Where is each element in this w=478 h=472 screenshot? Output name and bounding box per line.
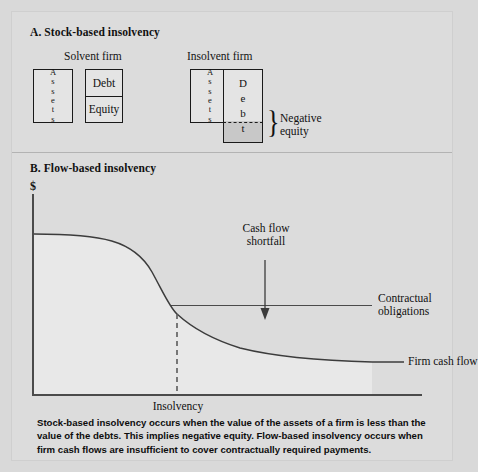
letter: e	[241, 91, 246, 106]
figure-caption: Stock-based insolvency occurs when the v…	[37, 416, 443, 456]
letter: t	[241, 121, 244, 136]
solvent-assets-label: A s s e t s	[34, 70, 72, 122]
negative-equity-brace: }	[267, 107, 279, 140]
letter: b	[240, 106, 246, 121]
letter: s	[208, 115, 211, 124]
negative-equity-label-line2: equity	[280, 125, 309, 138]
insolvent-debt-label: D e b t	[224, 70, 262, 148]
contractual-obligations-label-line2: obligations	[378, 305, 429, 319]
negative-equity-label-line1: Negative	[280, 112, 322, 125]
contractual-obligations-label-line1: Contractual	[378, 292, 432, 306]
solvent-equity-label: Equity	[86, 97, 122, 121]
panel-a-title: A. Stock-based insolvency	[30, 26, 160, 38]
cash-flow-shortfall-label-line1: Cash flow	[234, 222, 298, 236]
letter: D	[239, 76, 247, 91]
figure-panel: A. Stock-based insolvency Solvent firm I…	[12, 12, 452, 460]
letter: s	[51, 115, 54, 124]
solvent-assets-box: A s s e t s	[33, 69, 73, 123]
solvent-debt-label: Debt	[86, 70, 122, 96]
shortfall-arrow-head	[261, 308, 270, 320]
cash-flow-area-fill	[34, 234, 372, 394]
panel-divider	[12, 152, 452, 153]
insolvency-tick-label: Insolvency	[148, 400, 208, 414]
cash-flow-shortfall-label-line2: shortfall	[234, 235, 298, 249]
solvent-liabilities-box: Debt Equity	[85, 69, 123, 123]
insolvent-debt-box: D e b t	[223, 69, 263, 143]
flow-insolvency-chart: $ Cash flow shortfall Contractual obliga…	[12, 162, 452, 422]
insolvent-firm-heading: Insolvent firm	[187, 50, 252, 62]
solvent-firm-heading: Solvent firm	[64, 50, 122, 62]
firm-cash-flow-label: Firm cash flow	[408, 355, 478, 369]
